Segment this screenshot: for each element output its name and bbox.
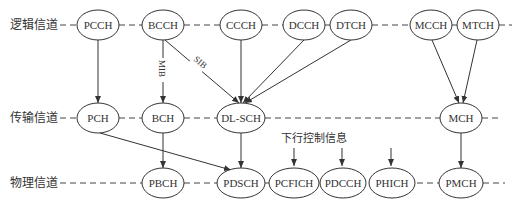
node-pdcch: PDCCH <box>320 168 366 198</box>
dashed-row-lines <box>60 25 512 183</box>
svg-text:PCCH: PCCH <box>84 19 113 31</box>
svg-text:DL-SCH: DL-SCH <box>221 112 261 124</box>
svg-text:PCFICH: PCFICH <box>275 177 314 189</box>
svg-text:PDSCH: PDSCH <box>223 177 259 189</box>
lte-downlink-channel-mapping-diagram: 逻辑信道 传输信道 物理信道 <box>0 0 515 215</box>
svg-text:CCCH: CCCH <box>226 19 256 31</box>
svg-text:BCCH: BCCH <box>148 19 178 31</box>
node-pcch: PCCH <box>77 10 119 40</box>
row-label-physical-channel: 物理信道 <box>10 176 58 190</box>
node-mcch: MCCH <box>410 10 452 40</box>
node-phich: PHICH <box>369 168 415 198</box>
node-pdsch: PDSCH <box>217 168 265 198</box>
svg-text:DTCH: DTCH <box>336 19 366 31</box>
node-mch: MCH <box>440 103 482 133</box>
node-ccch: CCCH <box>220 10 262 40</box>
edge-mcch-mch <box>432 40 459 103</box>
svg-text:PHICH: PHICH <box>375 177 408 189</box>
node-dcch: DCCH <box>283 10 325 40</box>
downlink-control-info-label: 下行控制信息 <box>281 131 347 145</box>
node-dl-sch: DL-SCH <box>217 103 265 133</box>
row-label-transport-channel: 传输信道 <box>10 110 58 125</box>
svg-text:PMCH: PMCH <box>445 177 476 189</box>
svg-text:BCH: BCH <box>152 112 175 124</box>
svg-text:MTCH: MTCH <box>462 19 494 31</box>
svg-text:PBCH: PBCH <box>149 177 178 189</box>
svg-text:PDCCH: PDCCH <box>325 177 362 189</box>
node-pmch: PMCH <box>439 168 483 198</box>
node-pcfich: PCFICH <box>269 168 319 198</box>
node-mtch: MTCH <box>457 10 499 40</box>
row-label-logical-channel: 逻辑信道 <box>10 18 58 32</box>
node-dtch: DTCH <box>330 10 372 40</box>
node-pbch: PBCH <box>142 168 184 198</box>
edge-dtch-dlsch <box>245 40 351 103</box>
node-bcch: BCCH <box>142 10 184 40</box>
node-pch: PCH <box>77 103 119 133</box>
node-bch: BCH <box>142 103 184 133</box>
edge-mtch-mch <box>463 40 477 103</box>
edge-dcch-dlsch <box>243 40 304 103</box>
svg-text:MCCH: MCCH <box>415 19 447 31</box>
svg-text:MCH: MCH <box>448 112 473 124</box>
svg-text:DCCH: DCCH <box>289 19 320 31</box>
svg-text:PCH: PCH <box>87 112 108 124</box>
edge-pch-pdsch <box>100 133 231 170</box>
edge-label-mib: MIB <box>157 60 167 77</box>
